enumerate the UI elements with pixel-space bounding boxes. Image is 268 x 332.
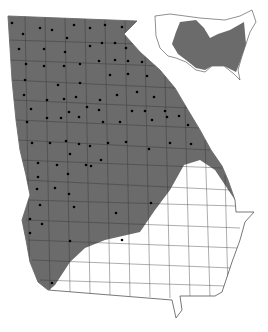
us-inset-map <box>155 10 256 80</box>
georgia-range-map <box>0 0 268 332</box>
